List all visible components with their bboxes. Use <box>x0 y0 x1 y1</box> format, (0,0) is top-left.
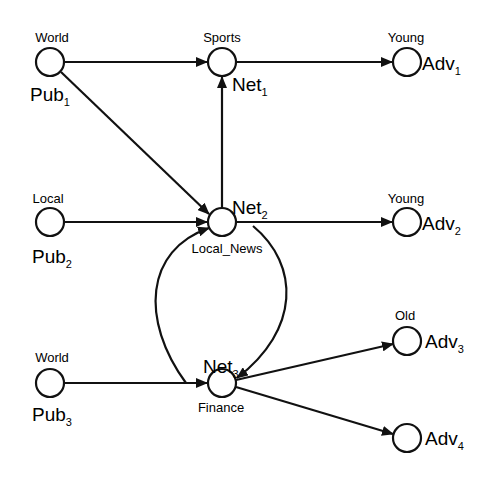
pub3-tag: World <box>35 350 69 365</box>
net3-tag: Finance <box>198 400 244 415</box>
pub1-label: Pub1 <box>30 84 70 108</box>
net1-label: Net1 <box>232 74 268 98</box>
net2-tag: Local_News <box>192 241 263 256</box>
node-adv2 <box>393 208 421 236</box>
node-pub3 <box>36 369 64 397</box>
edge-net3-adv3 <box>236 344 393 380</box>
net3-label: Net3 <box>203 356 239 380</box>
node-pub1 <box>36 48 64 76</box>
pub2-tag: Local <box>32 191 63 206</box>
pub3-label: Pub3 <box>32 404 72 428</box>
node-adv1 <box>393 48 421 76</box>
node-net1 <box>208 48 236 76</box>
network-diagram: World Local World Sports Local_News Fina… <box>0 0 497 479</box>
node-pub2 <box>36 208 64 236</box>
adv4-label: Adv4 <box>425 428 464 452</box>
node-adv4 <box>393 424 421 452</box>
net2-label: Net2 <box>232 197 268 221</box>
node-adv3 <box>393 327 421 355</box>
adv2-label: Adv2 <box>422 213 461 237</box>
net1-tag: Sports <box>203 30 241 45</box>
edge-pub1-net2 <box>61 72 209 214</box>
pub2-label: Pub2 <box>32 246 72 270</box>
edge-net3-adv4 <box>236 387 393 434</box>
adv1-label: Adv1 <box>422 53 461 77</box>
pub1-tag: World <box>35 30 69 45</box>
adv3-label: Adv3 <box>425 331 464 355</box>
adv3-tag: Old <box>395 308 415 323</box>
adv1-tag: Young <box>388 30 424 45</box>
adv2-tag: Young <box>388 191 424 206</box>
